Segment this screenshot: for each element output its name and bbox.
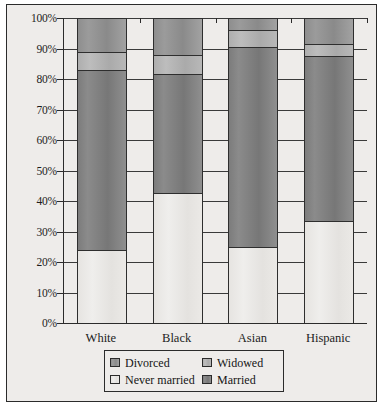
bar-segment-married[interactable] xyxy=(304,56,354,221)
y-axis-tick-label: 100% xyxy=(13,12,57,24)
bar-segment-married[interactable] xyxy=(228,47,278,247)
bar-segment-divorced[interactable] xyxy=(304,18,354,44)
x-axis-tick-label-black: Black xyxy=(162,331,191,346)
legend-entries: DivorcedWidowedNever marriedMarried xyxy=(110,354,278,388)
legend-item-widowed[interactable]: Widowed xyxy=(202,357,278,369)
legend-swatch-icon xyxy=(202,375,212,384)
y-axis-tick-label: 50% xyxy=(13,165,57,177)
bar-stack-white[interactable] xyxy=(77,18,127,323)
x-axis-tick-label-hispanic: Hispanic xyxy=(306,331,350,346)
x-axis-tick-label-white: White xyxy=(86,331,117,346)
x-axis-tick-mark xyxy=(140,18,141,23)
chart-canvas: 0%10%20%30%40%50%60%70%80%90%100% WhiteB… xyxy=(7,5,378,403)
x-axis-tick-label-asian: Asian xyxy=(238,331,267,346)
bar-segment-widowed[interactable] xyxy=(153,55,203,75)
bar-segment-divorced[interactable] xyxy=(228,18,278,30)
plot-area xyxy=(63,18,367,324)
y-axis-tick-label: 90% xyxy=(13,43,57,55)
y-axis-tick-label: 0% xyxy=(13,317,57,329)
bar-stack-asian[interactable] xyxy=(228,18,278,323)
bar-segment-never-married[interactable] xyxy=(304,221,354,323)
bar-segment-never-married[interactable] xyxy=(153,193,203,323)
x-axis-tick-mark xyxy=(216,18,217,23)
y-axis-tick-label: 20% xyxy=(13,256,57,268)
bar-segment-widowed[interactable] xyxy=(228,30,278,47)
legend-item-never-married[interactable]: Never married xyxy=(110,374,202,386)
x-axis-tick-mark xyxy=(291,18,292,23)
bar-segment-divorced[interactable] xyxy=(153,18,203,55)
legend-item-married[interactable]: Married xyxy=(202,374,278,386)
bar-segment-widowed[interactable] xyxy=(77,52,127,70)
y-axis-tick-label: 40% xyxy=(13,195,57,207)
chart-legend: DivorcedWidowedNever marriedMarried xyxy=(104,350,284,392)
y-axis-tick-label: 30% xyxy=(13,226,57,238)
y-axis-tick-label: 10% xyxy=(13,287,57,299)
bar-segment-married[interactable] xyxy=(77,70,127,250)
y-axis-tick-label: 80% xyxy=(13,73,57,85)
x-axis-tick-mark xyxy=(367,18,368,23)
bar-segment-married[interactable] xyxy=(153,74,203,193)
bar-stack-hispanic[interactable] xyxy=(304,18,354,323)
y-axis-labels: 0%10%20%30%40%50%60%70%80%90%100% xyxy=(11,5,57,403)
bar-segment-never-married[interactable] xyxy=(228,247,278,323)
legend-label: Widowed xyxy=(217,357,263,369)
legend-label: Divorced xyxy=(125,357,170,369)
y-axis-tick-label: 60% xyxy=(13,134,57,146)
bar-stack-black[interactable] xyxy=(153,18,203,323)
legend-swatch-icon xyxy=(110,375,120,384)
chart-frame: 0%10%20%30%40%50%60%70%80%90%100% WhiteB… xyxy=(6,4,377,402)
legend-item-divorced[interactable]: Divorced xyxy=(110,357,202,369)
bar-segment-widowed[interactable] xyxy=(304,44,354,56)
x-axis-labels: WhiteBlackAsianHispanic xyxy=(63,327,366,347)
legend-swatch-icon xyxy=(202,358,212,367)
legend-label: Married xyxy=(217,374,256,386)
legend-label: Never married xyxy=(125,374,195,386)
bar-segment-never-married[interactable] xyxy=(77,250,127,323)
bar-segment-divorced[interactable] xyxy=(77,18,127,52)
legend-swatch-icon xyxy=(110,358,120,367)
y-axis-tick-label: 70% xyxy=(13,104,57,116)
